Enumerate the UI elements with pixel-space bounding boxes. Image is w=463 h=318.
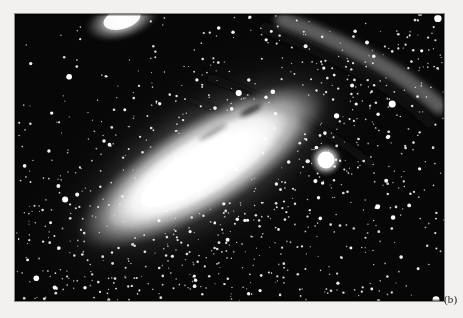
galaxy-plate-svg [15,14,444,301]
astronomy-photograph [15,14,444,301]
figure-container: (b) [0,0,463,318]
figure-label: (b) [444,293,457,305]
film-grain [15,14,444,301]
